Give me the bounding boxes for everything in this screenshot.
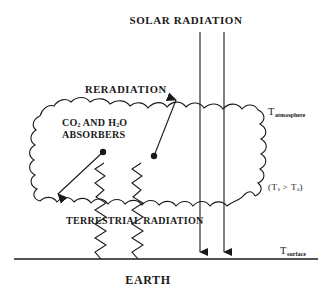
label-t-surface: Tsurface xyxy=(280,245,306,258)
atmosphere-layer xyxy=(30,98,267,207)
reradiation-arrow-up xyxy=(154,100,176,156)
label-t-atmosphere: Tatmosphere xyxy=(268,106,305,119)
t-surface-subscript: surface xyxy=(287,251,306,257)
absorber-dot-left xyxy=(100,149,106,155)
reradiation-arrow-down xyxy=(58,152,103,194)
atmosphere-bottom-boundary xyxy=(40,192,255,206)
absorber-dot-right xyxy=(151,153,157,159)
temp-relation-open: (T xyxy=(268,182,278,192)
diagram-canvas xyxy=(0,0,325,301)
t-atmosphere-subscript: atmosphere xyxy=(275,112,305,118)
greenhouse-effect-diagram: SOLAR RADIATION RERADIATION CO2 AND H2O … xyxy=(0,0,325,301)
label-terrestrial-radiation: TERRESTRIAL RADIATION xyxy=(66,215,204,227)
label-temperature-relation: (Ts > Ta) xyxy=(268,182,303,192)
atmosphere-left-boundary xyxy=(30,116,40,201)
temp-relation-operator: > T xyxy=(280,182,297,192)
temp-relation-close: ) xyxy=(299,182,303,192)
t-atmosphere-symbol: T xyxy=(268,106,275,117)
reradiation-arrows xyxy=(58,100,176,194)
atmosphere-top-boundary xyxy=(40,98,258,117)
absorbers-word: ABSORBERS xyxy=(62,129,125,140)
atmosphere-right-boundary xyxy=(255,110,266,196)
terrestrial-wave-left xyxy=(95,163,106,259)
absorbers-and-h-text: AND H xyxy=(81,117,117,128)
terrestrial-radiation-waves xyxy=(95,163,143,259)
label-earth: EARTH xyxy=(125,274,170,288)
absorbers-co-text: CO xyxy=(62,117,78,128)
t-surface-symbol: T xyxy=(280,245,287,256)
absorbers-o-text: O xyxy=(119,117,127,128)
terrestrial-wave-right xyxy=(132,163,143,259)
label-solar-radiation: SOLAR RADIATION xyxy=(129,14,242,27)
label-reradiation: RERADIATION xyxy=(85,84,167,96)
label-co2-h2o-absorbers: CO2 AND H2O ABSORBERS xyxy=(62,117,127,141)
absorbers-formula-line: CO2 AND H2O xyxy=(62,117,127,128)
